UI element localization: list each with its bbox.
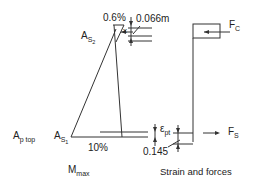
fc-label: FC	[229, 20, 240, 32]
lever-arm-label: 0.145	[143, 147, 168, 157]
lever-arrow-bottom	[176, 144, 180, 149]
lever-arrow-top	[176, 128, 180, 133]
fs-label: FS	[228, 127, 239, 139]
depth-slash	[133, 26, 140, 34]
moment-label: Mmax	[68, 165, 90, 177]
top-strain-label: 0.6%	[103, 13, 126, 23]
eps-arrow-bottom	[153, 137, 157, 142]
ap-top-label: Ap top	[13, 131, 35, 143]
eps-pt-label: εpt	[160, 124, 170, 136]
fs-arrowhead	[215, 131, 220, 135]
bottom-strain-label: 10%	[88, 143, 108, 153]
section-line	[114, 25, 122, 137]
top-depth-label: 0.066m	[136, 14, 169, 24]
fc-arrowhead	[204, 30, 209, 34]
as1-label: AS1	[54, 131, 68, 146]
caption-label: Strain and forces	[160, 167, 232, 177]
neutral-axis-label: x	[123, 27, 127, 35]
as2-label: AS2	[81, 31, 95, 46]
depth-arrow-top	[129, 21, 133, 26]
eps-arrow-top	[153, 127, 157, 132]
strain-force-diagram	[0, 0, 256, 187]
